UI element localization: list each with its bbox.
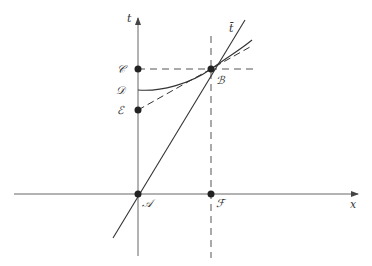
spacetime-diagram: t x t̄ 𝒜 ℬ 𝒞 𝒟 ℰ ℱ <box>0 0 372 266</box>
point-e <box>135 107 142 114</box>
label-t-axis: t <box>127 12 132 25</box>
point-b <box>208 66 215 73</box>
point-c <box>135 66 142 73</box>
label-f: ℱ <box>216 197 227 210</box>
point-a <box>135 191 142 198</box>
label-t-bar: t̄ <box>229 22 234 35</box>
t-bar-line <box>113 20 245 238</box>
label-c: 𝒞 <box>117 63 128 76</box>
label-e: ℰ <box>117 104 125 117</box>
label-b: ℬ <box>216 74 226 87</box>
curve-d-b <box>138 40 252 90</box>
label-d: 𝒟 <box>116 84 127 97</box>
point-f <box>208 191 215 198</box>
label-x-axis: x <box>350 198 357 211</box>
label-a: 𝒜 <box>142 197 156 210</box>
